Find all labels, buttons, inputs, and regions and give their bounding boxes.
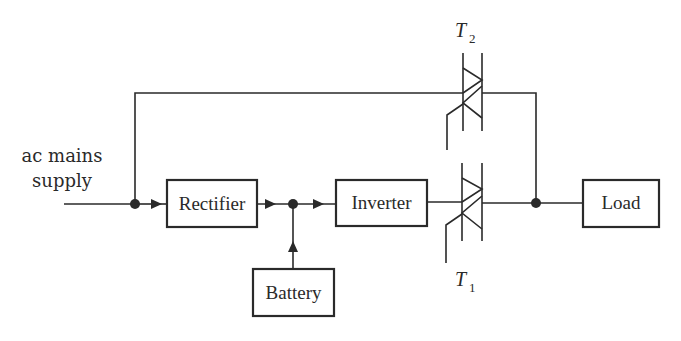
t1-subscript: 1 <box>469 280 476 295</box>
triac-t2-icon <box>447 53 482 150</box>
battery-label: Battery <box>266 282 322 303</box>
rectifier-label: Rectifier <box>179 193 246 214</box>
rectifier-block: Rectifier <box>167 180 257 227</box>
arrow-right-icon <box>265 199 276 209</box>
load-label: Load <box>601 192 641 213</box>
ups-block-diagram: ac mains supply Rectifier Battery Invert… <box>0 0 681 341</box>
ac-mains-supply-label: ac mains supply <box>22 145 103 191</box>
t1-symbol: T <box>455 268 468 290</box>
t2-subscript: 2 <box>469 31 476 46</box>
input-label-line2: supply <box>32 170 93 191</box>
battery-block: Battery <box>253 269 334 316</box>
load-block: Load <box>583 180 659 227</box>
arrow-right-icon <box>151 199 162 209</box>
triac-t1-icon <box>446 163 482 263</box>
t1-label: T 1 <box>455 268 476 295</box>
bypass-wire-right <box>482 93 536 203</box>
arrow-right-icon <box>313 199 324 209</box>
inverter-block: Inverter <box>336 180 427 226</box>
junction-c <box>531 198 541 208</box>
t2-label: T 2 <box>455 19 476 46</box>
input-label-line1: ac mains <box>22 145 103 166</box>
arrow-up-icon <box>288 241 298 252</box>
t2-symbol: T <box>455 19 468 41</box>
inverter-label: Inverter <box>351 192 412 213</box>
